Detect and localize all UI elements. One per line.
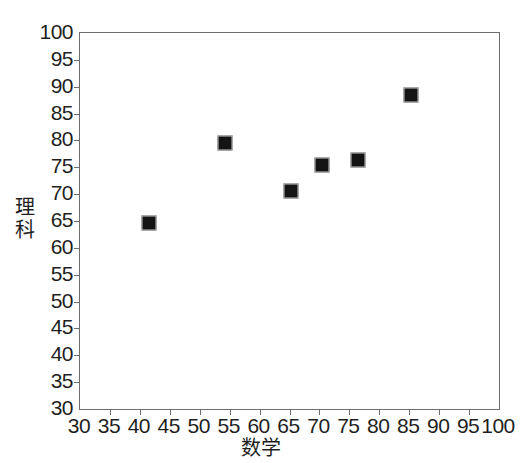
data-point-marker	[218, 135, 233, 150]
y-axis-tick	[74, 302, 80, 303]
y-axis-tick-label: 80	[51, 128, 73, 149]
data-point-marker	[141, 216, 156, 231]
y-axis-tick-label: 95	[51, 48, 73, 69]
data-point-marker	[350, 152, 365, 167]
y-axis-tick-label: 40	[51, 343, 73, 364]
y-axis-tick	[74, 114, 80, 115]
data-point-marker	[315, 157, 330, 172]
y-axis-tick	[74, 140, 80, 141]
data-point-marker	[283, 183, 298, 198]
x-axis-title: 数学	[0, 437, 522, 459]
y-axis-tick-label: 70	[51, 182, 73, 203]
y-axis-tick-label: 35	[51, 370, 73, 391]
y-axis-tick-label: 100	[39, 21, 73, 42]
y-axis-tick-label: 55	[51, 263, 73, 284]
y-axis-tick	[74, 167, 80, 168]
y-axis-tick-label: 65	[51, 209, 73, 230]
scatter-plot-figure: 理科 3035404550556065707580859095100 30354…	[0, 0, 522, 463]
y-axis-tick	[74, 248, 80, 249]
y-axis-tick	[74, 275, 80, 276]
y-axis-tick	[74, 60, 80, 61]
y-axis-tick	[74, 382, 80, 383]
y-axis-tick-label: 90	[51, 75, 73, 96]
plot-area	[79, 32, 500, 410]
y-axis-tick-label: 75	[51, 155, 73, 176]
y-axis-tick-label: 60	[51, 236, 73, 257]
y-axis-tick	[74, 355, 80, 356]
data-point-marker	[404, 88, 419, 103]
y-axis-tick	[74, 194, 80, 195]
y-axis-tick	[74, 87, 80, 88]
y-axis-tick	[74, 328, 80, 329]
y-axis-tick-label: 85	[51, 102, 73, 123]
y-axis-tick-labels: 3035404550556065707580859095100	[0, 0, 73, 463]
y-axis-tick	[74, 221, 80, 222]
x-axis-tick-label: 100	[473, 415, 522, 436]
y-axis-tick-label: 45	[51, 316, 73, 337]
y-axis-tick-label: 50	[51, 290, 73, 311]
